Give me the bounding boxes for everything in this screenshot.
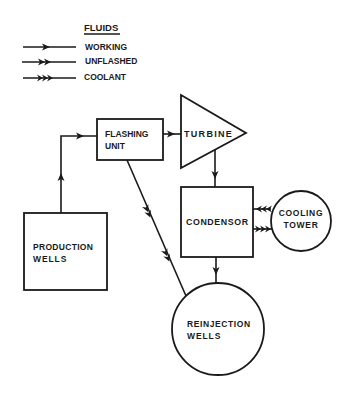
flashing-unit-label-line1: FLASHING [105, 129, 149, 139]
turbine-label: TURBINE [184, 129, 233, 139]
geothermal-flow-diagram: FLUIDS WORKING UNFLASHED COOLANT [0, 0, 351, 399]
node-flashing-unit: FLASHING UNIT [97, 119, 163, 160]
edge-production-to-flashing [58, 133, 98, 214]
legend-item-working: WORKING [23, 42, 127, 52]
node-condensor: CONDENSOR [181, 187, 253, 257]
edge-flashing-to-reinjection [127, 160, 186, 296]
triple-arrow-icon [37, 75, 53, 82]
unflashed-fluid-line [127, 160, 186, 296]
legend-label-unflashed: UNFLASHED [85, 56, 137, 66]
legend-label-coolant: COOLANT [84, 72, 127, 82]
node-reinjection-wells: REINJECTION WELLS [172, 283, 264, 375]
cooling-tower-label-line1: COOLING [279, 208, 324, 218]
reinjection-wells-label-line1: REINJECTION [187, 319, 251, 329]
legend-label-working: WORKING [85, 42, 127, 52]
production-wells-label-line1: PRODUCTION [33, 242, 93, 252]
node-cooling-tower: COOLING TOWER [271, 191, 331, 251]
edge-condensor-to-cooling [253, 226, 272, 233]
triple-arrow-left-icon [256, 206, 272, 213]
edge-turbine-to-condensor [212, 150, 219, 187]
reinjection-wells-circle [172, 283, 264, 375]
legend-item-coolant: COOLANT [23, 72, 127, 82]
triple-arrow-right-icon [255, 226, 271, 233]
node-production-wells: PRODUCTION WELLS [24, 213, 107, 290]
cooling-tower-label-line2: TOWER [284, 220, 319, 230]
reinjection-wells-label-line2: WELLS [187, 331, 221, 341]
legend: FLUIDS WORKING UNFLASHED COOLANT [22, 22, 137, 82]
working-fluid-line [61, 136, 97, 213]
legend-title: FLUIDS [84, 22, 118, 33]
edge-flashing-to-turbine [163, 131, 181, 138]
condensor-label: CONDENSOR [186, 217, 249, 227]
production-wells-label-line2: WELLS [33, 254, 67, 264]
edge-condensor-to-reinjection [213, 257, 220, 283]
legend-item-unflashed: UNFLASHED [22, 56, 137, 66]
node-turbine: TURBINE [181, 95, 246, 168]
flashing-unit-box [97, 119, 163, 160]
edge-cooling-to-condensor [253, 206, 272, 213]
flashing-unit-label-line2: UNIT [105, 141, 126, 151]
